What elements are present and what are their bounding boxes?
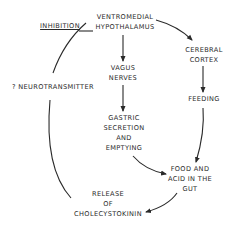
node-label-line: FEEDING [186,94,222,104]
node-label-line: EMPTYING [100,143,148,153]
node-food-and-acid: FOOD AND ACID IN THE GUT [166,164,214,194]
label-inhibition: INHIBITION [39,21,81,31]
arrow-feeding-to-food [196,108,203,162]
label-neurotransmitter: ? NEUROTRANSMITTER [12,82,94,92]
neurotransmitter-text: ? NEUROTRANSMITTER [12,82,94,92]
node-label-line: VAGUS [103,63,143,73]
node-label-line: GASTRIC [100,113,148,123]
node-label-line: CHOLECYSTOKININ [74,209,142,219]
node-ventromedial-hypothalamus: VENTROMEDIAL HYPOTHALAMUS [95,12,155,32]
node-label-line: VENTROMEDIAL [95,12,155,22]
node-label-line: ACID IN THE [166,174,214,184]
node-release-of-cholecystokinin: RELEASE OF CHOLECYSTOKININ [74,189,142,219]
inhibition-text: INHIBITION [39,21,81,31]
node-cerebral-cortex: CEREBRAL CORTEX [183,45,225,65]
node-label-line: CORTEX [183,55,225,65]
arc-cck-to-neurotransmitter [49,100,71,198]
node-label-line: CEREBRAL [183,45,225,55]
node-label-line: HYPOTHALAMUS [95,22,155,32]
node-label-line: GUT [166,184,214,194]
node-label-line: AND [100,133,148,143]
node-label-line: OF [74,199,142,209]
node-feeding: FEEDING [186,94,222,104]
node-label-line: FOOD AND [166,164,214,174]
node-label-line: SECRETION [100,123,148,133]
node-vagus-nerves: VAGUS NERVES [103,63,143,83]
arrow-vmh-to-cortex [156,20,192,40]
node-label-line: RELEASE [74,189,142,199]
arrow-food-to-cck [146,193,177,212]
node-label-line: NERVES [103,73,143,83]
arrow-gastric-to-food [133,156,166,174]
node-gastric-secretion: GASTRIC SECRETION AND EMPTYING [100,113,148,153]
feedback-diagram: VENTROMEDIAL HYPOTHALAMUS INHIBITION VAG… [0,0,231,229]
